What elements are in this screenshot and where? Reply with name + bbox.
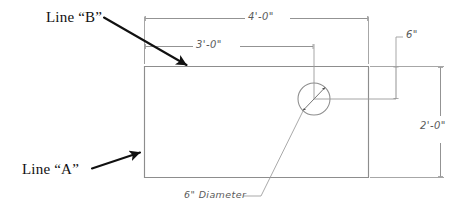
dimension-overall-width	[145, 17, 369, 65]
feature-label-hole-diameter: 6" Diameter	[184, 190, 246, 200]
line-a-arrow	[92, 153, 140, 169]
hole-note-leader	[261, 110, 304, 196]
dimension-six-inch	[396, 37, 403, 99]
callout-label-line-b: Line “B”	[46, 10, 102, 25]
dimension-hole-offset	[145, 44, 315, 64]
dimension-label-hole-offset: 3'-0"	[196, 40, 222, 50]
technical-drawing: Line “B” Line “A” 4'-0" 3'-0" 6" 2'-0" 6…	[0, 0, 473, 212]
plate-rectangle	[145, 67, 369, 178]
drawing-canvas	[0, 0, 473, 212]
dimension-label-overall-height: 2'-0"	[420, 121, 446, 131]
callout-label-line-a: Line “A”	[22, 162, 79, 177]
callout-arrows	[92, 18, 187, 169]
dimension-label-six-inch: 6"	[406, 30, 418, 40]
plate-outline	[145, 67, 369, 178]
line-b-arrow	[104, 18, 187, 66]
dimension-label-overall-width: 4'-0"	[248, 12, 274, 22]
hole-feature	[243, 64, 396, 196]
